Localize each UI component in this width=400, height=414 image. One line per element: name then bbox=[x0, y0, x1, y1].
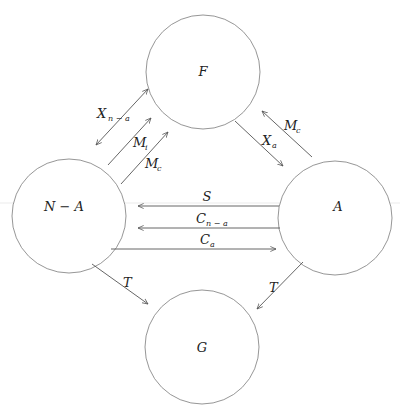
edge-x-a-subscript: a bbox=[272, 141, 277, 150]
edge-c-n-a-label: C bbox=[196, 211, 206, 226]
node-f-label: F bbox=[197, 64, 208, 79]
node-a-label: A bbox=[332, 199, 342, 214]
node-n-minus-a: N − A bbox=[12, 159, 126, 273]
edge-s: S bbox=[138, 189, 279, 206]
edge-x-n-a-subscript: n − a bbox=[108, 114, 130, 123]
edge-c-n-a: C n − a bbox=[138, 211, 280, 228]
node-n-minus-a-label: N − A bbox=[43, 199, 84, 214]
node-g-label: G bbox=[197, 340, 207, 355]
edge-c-a-subscript: a bbox=[210, 240, 215, 249]
edge-c-n-a-subscript: n − a bbox=[206, 219, 228, 228]
edge-m-i-subscript: i bbox=[145, 143, 148, 152]
edge-t-right: T bbox=[257, 262, 303, 309]
edge-m-c-left-subscript: c bbox=[157, 164, 162, 173]
node-g: G bbox=[145, 290, 259, 404]
flow-diagram: F N − A A G X n − a M i M c X a M c bbox=[0, 0, 400, 414]
edge-t-left: T bbox=[92, 264, 148, 304]
edge-s-label: S bbox=[203, 189, 212, 204]
node-a: A bbox=[278, 161, 392, 275]
edge-x-a-label: X bbox=[261, 133, 272, 148]
edge-t-right-label: T bbox=[269, 280, 279, 295]
edge-c-a: C a bbox=[111, 232, 276, 249]
edge-t-left-label: T bbox=[123, 275, 133, 290]
edge-c-a-label: C bbox=[200, 232, 210, 247]
node-f: F bbox=[146, 15, 260, 129]
edge-x-n-a-label: X bbox=[96, 106, 107, 121]
edge-m-c-right-subscript: c bbox=[296, 126, 301, 135]
edge-x-a: X a bbox=[235, 121, 283, 166]
